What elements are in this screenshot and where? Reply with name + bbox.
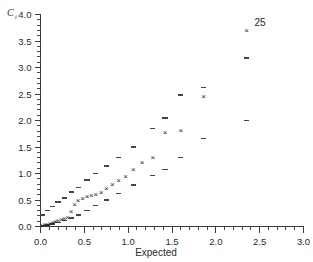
x-axis-tick-labels: 0.00.51.01.52.02.53.0 [34, 236, 310, 247]
data-point-marker: × [131, 165, 136, 174]
y-tick-label: 4.0 [18, 9, 31, 20]
x-tick-label: 3.0 [297, 236, 310, 247]
y-axis-title: C [7, 7, 14, 18]
envelope-upper-markers [40, 58, 249, 215]
data-point-marker: × [123, 172, 128, 181]
x-tick-label: 1.0 [122, 236, 135, 247]
x-tick-label: 0.0 [34, 236, 47, 247]
data-point-marker: × [163, 128, 168, 137]
data-point-marker: × [150, 153, 155, 162]
y-axis-title-subscript: i [15, 13, 17, 20]
data-point-marker: × [140, 158, 145, 167]
x-axis-ticks [41, 227, 304, 233]
x-tick-label: 1.5 [165, 236, 178, 247]
x-tick-label: 2.0 [209, 236, 222, 247]
y-tick-label: 1.0 [18, 168, 31, 179]
plot-canvas: 0.00.51.01.52.02.53.0 0.00.51.01.52.02.5… [0, 0, 313, 262]
y-tick-label: 0.5 [18, 195, 31, 206]
y-tick-label: 2.5 [18, 89, 31, 100]
y-axis-tick-labels: 0.00.51.01.52.02.53.03.54.0 [18, 9, 31, 232]
data-point-marker: × [244, 26, 249, 35]
y-tick-label: 1.5 [18, 142, 31, 153]
data-point-marker: × [110, 180, 115, 189]
y-tick-label: 3.0 [18, 62, 31, 73]
data-point-marker: × [178, 126, 183, 135]
y-tick-label: 3.5 [18, 36, 31, 47]
y-tick-label: 0.0 [18, 221, 31, 232]
point-annotations: 25 [255, 17, 267, 28]
data-point-marker: × [93, 190, 98, 199]
data-point-marker: × [116, 176, 121, 185]
half-normal-plot-figure: 0.00.51.01.52.02.53.0 0.00.51.01.52.02.5… [0, 0, 313, 262]
outlier-label: 25 [255, 17, 267, 28]
data-point-marker: × [201, 92, 206, 101]
y-axis-ticks [35, 15, 41, 227]
data-point-marker: × [99, 188, 104, 197]
data-point-marker: × [104, 184, 109, 193]
x-tick-label: 0.5 [78, 236, 91, 247]
x-axis-title: Expected [135, 247, 177, 258]
x-tick-label: 2.5 [253, 236, 266, 247]
data-point-markers: ××××××××××××××××××××××××××××× [40, 26, 249, 230]
y-tick-label: 2.0 [18, 115, 31, 126]
